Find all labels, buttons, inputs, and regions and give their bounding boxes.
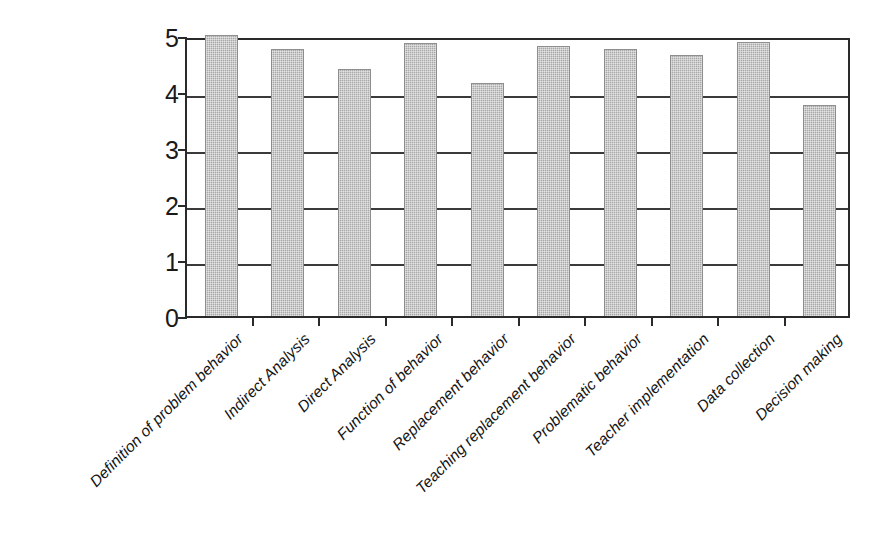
bar <box>271 49 304 316</box>
x-axis-category-label: Teacher implementation <box>582 330 713 461</box>
y-axis-tick-label: 3 <box>153 138 179 163</box>
y-axis-tick-labels: 012345 <box>145 38 179 318</box>
bar-chart: 012345 Definition of problem behaviorInd… <box>0 0 894 534</box>
y-axis-tick-label: 4 <box>153 82 179 107</box>
bar <box>803 105 836 316</box>
y-axis-tick-label: 1 <box>153 250 179 275</box>
bar <box>604 49 637 316</box>
bar <box>670 55 703 316</box>
bar <box>737 42 770 316</box>
plot-area <box>185 38 850 318</box>
bar <box>338 69 371 316</box>
y-axis-tick-label: 5 <box>153 26 179 51</box>
bar <box>537 46 570 316</box>
bar <box>471 83 504 316</box>
x-axis-category-label: Replacement behavior <box>389 330 513 454</box>
x-axis-category-label: Problematic behavior <box>529 330 646 447</box>
bars-group <box>187 40 848 316</box>
bar <box>205 35 238 316</box>
bar <box>404 43 437 316</box>
y-axis-tick-label: 2 <box>153 194 179 219</box>
x-axis-category-labels: Definition of problem behaviorIndirect A… <box>0 318 894 534</box>
